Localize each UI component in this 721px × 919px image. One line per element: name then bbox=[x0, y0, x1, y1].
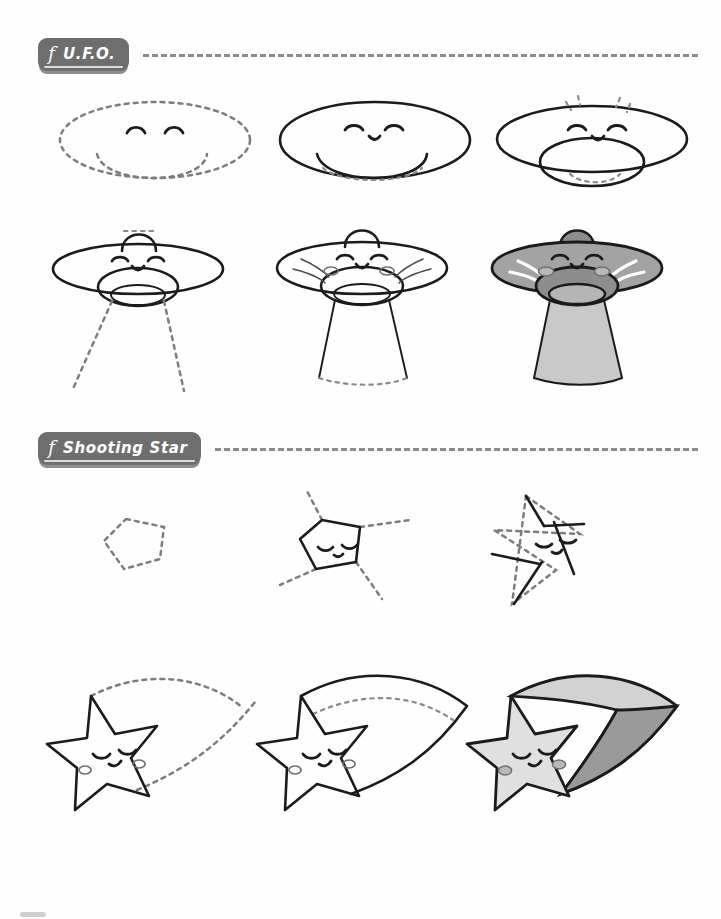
star-step-1 bbox=[88, 497, 208, 607]
ufo-step-4 bbox=[50, 215, 275, 395]
header-dashed-rule bbox=[215, 448, 698, 451]
brush-glyph-icon: f bbox=[48, 44, 55, 63]
section-title-ufo: U.F.O. bbox=[63, 45, 115, 63]
ufo-step-1 bbox=[55, 88, 265, 203]
ufo-step-5 bbox=[267, 215, 492, 395]
section-header-ufo: f U.F.O. bbox=[38, 38, 698, 71]
star-step-6 bbox=[465, 662, 690, 827]
worksheet-page: f U.F.O. bbox=[0, 0, 721, 919]
section-header-shooting-star: f Shooting Star bbox=[38, 432, 698, 465]
ufo-step-2 bbox=[275, 88, 485, 203]
brush-glyph-icon: f bbox=[48, 438, 55, 457]
ufo-step-6 bbox=[482, 215, 707, 395]
star-step-5 bbox=[255, 662, 470, 827]
page-corner-mark bbox=[20, 912, 46, 917]
star-step-2 bbox=[278, 487, 448, 612]
section-label-chip-star: f Shooting Star bbox=[38, 432, 201, 465]
star-step-4 bbox=[45, 662, 260, 827]
star-step-3 bbox=[492, 482, 667, 612]
header-dashed-rule bbox=[143, 54, 698, 57]
section-label-chip-ufo: f U.F.O. bbox=[38, 38, 129, 71]
ufo-step-3 bbox=[492, 84, 707, 204]
section-title-shooting-star: Shooting Star bbox=[63, 439, 187, 457]
